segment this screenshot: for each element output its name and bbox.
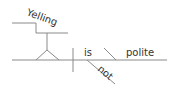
subject-word: Yelling bbox=[24, 6, 59, 28]
verb-word: is bbox=[84, 47, 92, 58]
complement-slash bbox=[104, 48, 116, 60]
gerund-step-line bbox=[12, 23, 68, 33]
sentence-diagram: Yelling is not polite bbox=[0, 0, 175, 91]
modifier-word: not bbox=[96, 63, 116, 82]
complement-word: polite bbox=[126, 47, 154, 58]
pedestal-legs bbox=[36, 50, 59, 60]
